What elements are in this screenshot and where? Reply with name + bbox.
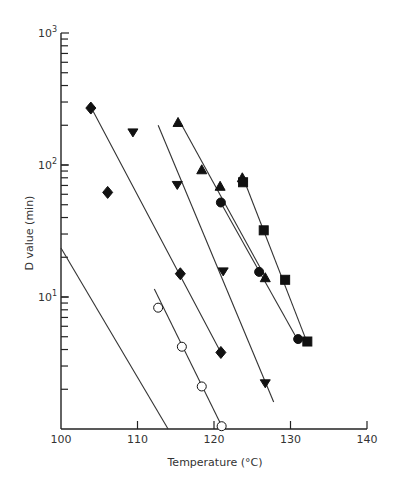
x-axis-title: Temperature (°C)	[167, 456, 263, 469]
circle-marker	[294, 335, 303, 344]
x-tick-label: 120	[204, 433, 225, 446]
fit-line	[246, 185, 306, 339]
triangle-up-marker	[173, 117, 183, 126]
x-tick-label: 140	[357, 433, 378, 446]
fit-line	[93, 111, 222, 354]
diamond-marker	[216, 346, 226, 358]
fit-line	[61, 248, 168, 429]
square-marker	[303, 337, 312, 346]
triangle-down-marker	[260, 380, 270, 388]
fit-line	[158, 125, 274, 402]
triangle-down-marker	[172, 181, 182, 189]
x-tick-label: 100	[51, 433, 72, 446]
d-value-chart: 100110120130140101102103 Temperature (°C…	[0, 0, 394, 477]
diamond-marker	[86, 102, 96, 114]
y-tick-label: 103	[38, 25, 57, 40]
open-circle-marker	[177, 342, 186, 351]
square-marker	[239, 178, 248, 187]
square-marker	[281, 275, 290, 284]
axes: 100110120130140101102103	[38, 25, 378, 446]
triangle-up-marker	[215, 181, 225, 190]
y-axis-title: D value (min)	[23, 196, 36, 271]
x-tick-label: 130	[280, 433, 301, 446]
fit-line	[154, 289, 223, 429]
circle-marker	[255, 267, 264, 276]
open-circle-marker	[197, 382, 206, 391]
y-tick-label: 102	[38, 157, 57, 172]
open-circle-marker	[217, 422, 226, 431]
triangle-down-marker	[128, 129, 138, 137]
circle-marker	[216, 198, 225, 207]
square-marker	[259, 226, 268, 235]
y-tick-label: 101	[38, 289, 57, 304]
triangle-up-marker	[197, 165, 207, 174]
open-circle-marker	[154, 303, 163, 312]
diamond-marker	[103, 186, 113, 198]
x-tick-label: 110	[127, 433, 148, 446]
